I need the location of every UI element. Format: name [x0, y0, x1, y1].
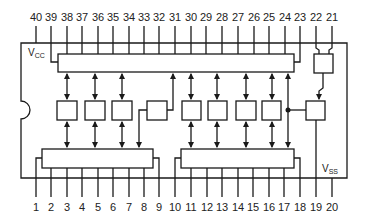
- pin-label-14: 14: [232, 201, 244, 213]
- pin-label-20: 20: [326, 201, 338, 213]
- pin-21-lead: [329, 26, 332, 54]
- control-block: [147, 101, 167, 120]
- vcc-label: VCC: [28, 47, 45, 59]
- pin-39-lead: [51, 26, 58, 62]
- pin-label-39: 39: [45, 11, 57, 23]
- pin-label-27: 27: [232, 11, 244, 23]
- vss-label: VSS: [322, 163, 338, 175]
- pin-label-28: 28: [216, 11, 228, 23]
- io-buffer-3: [112, 101, 132, 120]
- pin-label-17: 17: [278, 201, 290, 213]
- pin-label-34: 34: [123, 11, 135, 23]
- pin-label-12: 12: [201, 201, 213, 213]
- pin-label-13: 13: [216, 201, 228, 213]
- io-buffer-5: [208, 101, 227, 120]
- junction-dot: [286, 108, 291, 113]
- pin-label-15: 15: [247, 201, 259, 213]
- pin-label-33: 33: [138, 11, 150, 23]
- pin-label-6: 6: [110, 201, 116, 213]
- pin-label-40: 40: [30, 11, 42, 23]
- io-buffer-7: [262, 101, 281, 120]
- pin-22-lead: [316, 26, 319, 54]
- pin-label-24: 24: [279, 11, 291, 23]
- pin-label-26: 26: [248, 11, 260, 23]
- control-to-bottom-left: [139, 110, 147, 147]
- pin-label-38: 38: [61, 11, 73, 23]
- pin-label-7: 7: [126, 201, 132, 213]
- pin-label-8: 8: [141, 201, 147, 213]
- pin-label-37: 37: [76, 11, 88, 23]
- pin-label-21: 21: [326, 11, 338, 23]
- pin-label-1: 1: [33, 201, 39, 213]
- pin19-block: [306, 101, 325, 120]
- pin22-21-block: [314, 54, 333, 73]
- top-pin-labels: 4039383736353433323130292827262524232221: [30, 11, 338, 23]
- pin-label-9: 9: [156, 201, 162, 213]
- pin-label-36: 36: [92, 11, 104, 23]
- bottom-left-register: [42, 149, 153, 168]
- pin-label-2: 2: [48, 201, 54, 213]
- top-register: [58, 54, 294, 72]
- pin-label-22: 22: [310, 11, 322, 23]
- pin-label-30: 30: [185, 11, 197, 23]
- pin-label-35: 35: [107, 11, 119, 23]
- pin-label-31: 31: [169, 11, 181, 23]
- pin-label-25: 25: [263, 11, 275, 23]
- pin-label-10: 10: [169, 201, 181, 213]
- pin-label-18: 18: [294, 201, 306, 213]
- io-buffer-1: [57, 101, 77, 120]
- io-buffer-2: [85, 101, 105, 120]
- io-buffer-4: [182, 101, 201, 120]
- pin-23-lead: [294, 26, 300, 62]
- bottom-right-register: [181, 149, 294, 168]
- pin-label-29: 29: [200, 11, 212, 23]
- pin-label-5: 5: [95, 201, 101, 213]
- io-buffer-6: [236, 101, 256, 120]
- pin-label-16: 16: [263, 201, 275, 213]
- control-to-top: [167, 74, 173, 110]
- bottom-pin-labels: 1234567891011121314151617181920: [33, 201, 338, 213]
- pin-label-19: 19: [310, 201, 322, 213]
- pin-label-11: 11: [185, 201, 196, 213]
- pin-label-32: 32: [153, 11, 165, 23]
- pin-label-3: 3: [64, 201, 70, 213]
- ic-block-diagram: VCC VSS 40393837363534333231302928272625…: [0, 0, 366, 218]
- pin-label-4: 4: [79, 201, 85, 213]
- pin-label-23: 23: [294, 11, 306, 23]
